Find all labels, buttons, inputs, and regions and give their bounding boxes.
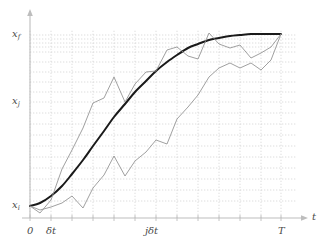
y-tick-label-xi: xi xyxy=(12,199,20,212)
classical-path-curve xyxy=(30,34,281,206)
axes-group xyxy=(22,9,308,221)
plot-canvas xyxy=(0,0,327,245)
x-axis-arrowhead xyxy=(301,215,308,221)
y-axis-arrowhead xyxy=(27,9,33,16)
y-tick-label-xj: xj xyxy=(12,95,20,108)
x-tick-label-T: T xyxy=(278,225,285,236)
sample-path-polyline xyxy=(30,33,281,213)
y-tick-label-xf: xf xyxy=(12,28,20,41)
sample-path-polyline xyxy=(30,34,281,210)
x-tick-label-deltat: δt xyxy=(46,225,56,236)
paths-group xyxy=(30,33,281,213)
x-axis-name-label: t xyxy=(312,211,316,222)
x-tick-label-jdeltat: jδt xyxy=(145,225,158,236)
physics-path-integral-figure: xf xj xi 0 δt jδt T t xyxy=(0,0,327,245)
x-tick-label-zero: 0 xyxy=(27,225,33,236)
